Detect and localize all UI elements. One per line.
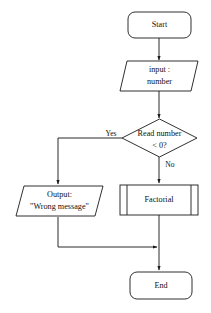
node-decision[interactable]: Read number < 0? [122, 119, 197, 157]
node-factorial[interactable]: Factorial [120, 185, 198, 215]
flowchart-diagram: Start input : number Read number < 0? Ye… [0, 0, 211, 313]
node-output[interactable]: Output: "Wrong message" [16, 186, 103, 216]
output-label-line2: "Wrong message" [30, 202, 89, 211]
edge-output-to-merge [58, 217, 157, 247]
factorial-label: Factorial [144, 195, 174, 204]
decision-label-line1: Read number [138, 129, 182, 138]
edge-decision-yes-to-output [58, 138, 122, 184]
node-end[interactable]: End [130, 272, 192, 299]
edge-label-yes: Yes [105, 129, 116, 138]
decision-shape [122, 119, 197, 157]
input-label-line2: number [147, 77, 172, 86]
node-start[interactable]: Start [128, 12, 191, 38]
flowchart-canvas: Start input : number Read number < 0? Ye… [0, 0, 211, 313]
input-label-line1: input : [149, 65, 170, 74]
node-input[interactable]: input : number [120, 61, 198, 91]
decision-label-line2: < 0? [152, 141, 167, 150]
output-label-line1: Output: [47, 190, 72, 199]
end-label: End [154, 281, 167, 290]
start-label: Start [152, 20, 168, 29]
edge-label-no: No [165, 160, 174, 169]
